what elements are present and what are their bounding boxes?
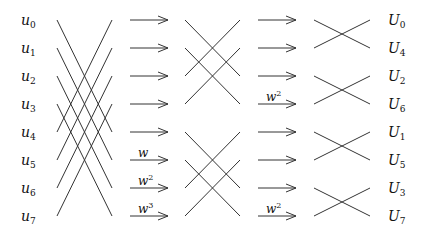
twiddle-label-stage1-row5: w: [138, 146, 148, 159]
stage1-arrows: [130, 16, 168, 220]
input-label-u5: u5: [21, 153, 36, 170]
output-label-U0: U0: [388, 13, 406, 30]
input-label-u2: u2: [21, 69, 36, 86]
twiddle-label-stage2-row3: w2: [266, 90, 281, 103]
butterfly-lines: [0, 0, 421, 236]
twiddle-label-stage1-row6: w2: [138, 174, 153, 187]
stage2-butterflies: [185, 20, 240, 216]
output-label-U2: U2: [388, 69, 406, 86]
stage2-arrows: [258, 16, 296, 220]
input-label-u0: u0: [21, 13, 36, 30]
input-label-u6: u6: [21, 181, 36, 198]
fft-butterfly-diagram: u0 u1 u2 u3 u4 u5 u6 u7 w w2 w3 w2 w2 U0…: [0, 0, 421, 236]
input-label-u4: u4: [21, 125, 36, 142]
output-label-U6: U6: [388, 97, 406, 114]
stage3-butterflies: [314, 20, 370, 216]
twiddle-label-stage1-row7: w3: [138, 202, 153, 215]
output-label-U1: U1: [388, 125, 406, 142]
input-label-u3: u3: [21, 97, 36, 114]
stage1-butterflies: [57, 20, 112, 216]
output-label-U5: U5: [388, 153, 406, 170]
output-label-U3: U3: [388, 181, 406, 198]
input-label-u1: u1: [21, 41, 36, 58]
twiddle-label-stage2-row7: w2: [266, 202, 281, 215]
input-label-u7: u7: [21, 209, 36, 226]
output-label-U7: U7: [388, 209, 406, 226]
output-label-U4: U4: [388, 41, 406, 58]
